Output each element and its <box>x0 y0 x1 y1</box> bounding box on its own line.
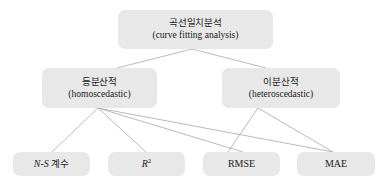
node-ns-coefficient[interactable]: N-S 계수 <box>13 152 90 176</box>
node-label: RMSE <box>228 158 255 171</box>
edge-root-to-homoscedastic <box>117 49 192 68</box>
edge-heteroscedastic-to-rmse <box>228 108 258 152</box>
node-label-en: (homoscedastic) <box>68 89 130 101</box>
diagram-canvas: 곡선일치분석 (curve fitting analysis) 등분산적 (ho… <box>0 0 382 182</box>
ns-korean-part: 계수 <box>51 158 69 169</box>
node-mae[interactable]: MAE <box>297 152 375 176</box>
node-label: N-S 계수 <box>34 158 70 171</box>
edge-root-to-heteroscedastic <box>192 49 266 68</box>
node-curve-fitting-analysis[interactable]: 곡선일치분석 (curve fitting analysis) <box>118 10 273 49</box>
node-label: R2 <box>142 158 151 171</box>
edge-homoscedastic-to-ns <box>52 108 98 152</box>
node-label-ko: 곡선일치분석 <box>169 17 222 29</box>
node-label-ko: 등분산적 <box>82 76 117 88</box>
ns-italic-part: N-S <box>34 158 49 169</box>
node-label-ko: 이분산적 <box>263 76 298 88</box>
node-homoscedastic[interactable]: 등분산적 (homoscedastic) <box>42 68 157 108</box>
node-label: MAE <box>325 158 347 171</box>
node-heteroscedastic[interactable]: 이분산적 (heteroscedastic) <box>222 68 340 108</box>
node-label-en: (heteroscedastic) <box>249 89 313 101</box>
node-label-en: (curve fitting analysis) <box>152 30 238 42</box>
edge-heteroscedastic-to-mae <box>258 108 333 152</box>
edge-homoscedastic-to-rmse <box>98 108 243 152</box>
edge-homoscedastic-to-mae <box>98 108 333 152</box>
r2-exponent: 2 <box>148 156 151 163</box>
edge-homoscedastic-to-r2 <box>98 108 146 152</box>
node-rmse[interactable]: RMSE <box>203 152 280 176</box>
node-r-squared[interactable]: R2 <box>108 152 185 176</box>
